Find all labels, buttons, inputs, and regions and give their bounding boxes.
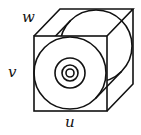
concentric-circle-middle [62,65,78,81]
concentric-circle-outer [55,58,85,88]
front-circle [34,37,106,109]
cube-diagram: w v u [0,0,141,135]
label-w: w [22,8,35,26]
label-v: v [8,63,17,81]
concentric-circle-inner [66,69,74,77]
label-u: u [65,113,75,131]
